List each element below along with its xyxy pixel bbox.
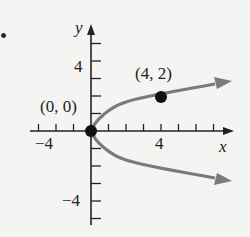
- point-4-2-label: (4, 2): [135, 65, 172, 82]
- x-axis-arrow-icon: [223, 127, 234, 135]
- x-tick-label-neg4: −4: [35, 135, 53, 152]
- upper-branch-arrow-icon: [214, 77, 232, 89]
- point-4-2: [155, 91, 167, 103]
- x-tick-label-4: 4: [155, 135, 164, 152]
- origin-point-label: (0, 0): [40, 98, 77, 115]
- x-ticks: [39, 124, 214, 131]
- x-axis-label: x: [219, 138, 227, 155]
- lower-branch-arrow-icon: [214, 173, 232, 185]
- y-axis-arrow-icon: [87, 24, 95, 35]
- y-tick-label-4: 4: [74, 58, 83, 75]
- coordinate-plot: [0, 0, 250, 237]
- point-origin: [85, 125, 97, 137]
- parabola-upper-branch: [91, 84, 215, 131]
- y-axis-label: y: [75, 19, 83, 36]
- y-tick-label-neg4: −4: [62, 192, 80, 209]
- bullet-marker: •: [0, 26, 7, 46]
- parabola-lower-branch: [91, 131, 215, 178]
